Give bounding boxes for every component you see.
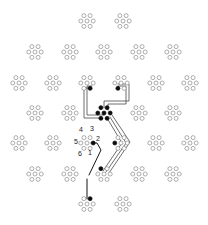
node-unselected[interactable] xyxy=(96,50,100,54)
node-unselected[interactable] xyxy=(113,81,117,85)
node-unselected[interactable] xyxy=(99,177,103,181)
node-selected[interactable] xyxy=(96,111,100,115)
node-unselected[interactable] xyxy=(65,177,69,181)
node-cluster[interactable] xyxy=(113,76,129,91)
node-unselected[interactable] xyxy=(171,172,175,176)
node-unselected[interactable] xyxy=(121,19,125,23)
node-unselected[interactable] xyxy=(116,146,120,150)
node-cluster[interactable] xyxy=(62,167,78,182)
node-selected[interactable] xyxy=(99,116,103,120)
node-unselected[interactable] xyxy=(88,24,92,28)
node-cluster[interactable] xyxy=(148,76,164,91)
node-unselected[interactable] xyxy=(33,111,37,115)
node-unselected[interactable] xyxy=(125,141,129,145)
node-unselected[interactable] xyxy=(79,141,83,145)
node-selected[interactable] xyxy=(113,141,117,145)
node-unselected[interactable] xyxy=(65,116,69,120)
node-unselected[interactable] xyxy=(74,172,78,176)
node-unselected[interactable] xyxy=(174,106,178,110)
node-unselected[interactable] xyxy=(82,76,86,80)
node-unselected[interactable] xyxy=(191,76,195,80)
node-unselected[interactable] xyxy=(182,81,186,85)
node-unselected[interactable] xyxy=(165,50,169,54)
node-cluster[interactable] xyxy=(62,45,78,60)
node-unselected[interactable] xyxy=(54,136,58,140)
node-unselected[interactable] xyxy=(82,86,86,90)
node-unselected[interactable] xyxy=(71,167,75,171)
node-unselected[interactable] xyxy=(165,111,169,115)
node-unselected[interactable] xyxy=(14,76,18,80)
node-unselected[interactable] xyxy=(99,55,103,59)
node-unselected[interactable] xyxy=(88,136,92,140)
node-unselected[interactable] xyxy=(54,146,58,150)
node-unselected[interactable] xyxy=(134,116,138,120)
node-unselected[interactable] xyxy=(79,202,83,206)
node-unselected[interactable] xyxy=(127,202,131,206)
node-unselected[interactable] xyxy=(157,86,161,90)
node-unselected[interactable] xyxy=(65,55,69,59)
node-unselected[interactable] xyxy=(74,111,78,115)
node-unselected[interactable] xyxy=(177,172,181,176)
node-unselected[interactable] xyxy=(174,45,178,49)
node-unselected[interactable] xyxy=(30,167,34,171)
node-unselected[interactable] xyxy=(140,55,144,59)
node-selected[interactable] xyxy=(99,106,103,110)
node-unselected[interactable] xyxy=(168,106,172,110)
node-unselected[interactable] xyxy=(124,14,128,18)
node-unselected[interactable] xyxy=(71,116,75,120)
node-unselected[interactable] xyxy=(160,141,164,145)
node-unselected[interactable] xyxy=(82,197,86,201)
node-unselected[interactable] xyxy=(165,172,169,176)
node-cluster[interactable] xyxy=(131,45,147,60)
node-unselected[interactable] xyxy=(134,167,138,171)
node-unselected[interactable] xyxy=(154,81,158,85)
node-unselected[interactable] xyxy=(71,45,75,49)
node-cluster[interactable] xyxy=(148,136,164,151)
node-unselected[interactable] xyxy=(65,167,69,171)
node-cluster[interactable] xyxy=(182,136,198,151)
node-unselected[interactable] xyxy=(48,76,52,80)
node-unselected[interactable] xyxy=(171,50,175,54)
node-unselected[interactable] xyxy=(131,111,135,115)
node-unselected[interactable] xyxy=(168,116,172,120)
node-unselected[interactable] xyxy=(85,141,89,145)
node-unselected[interactable] xyxy=(174,116,178,120)
node-unselected[interactable] xyxy=(82,207,86,211)
node-unselected[interactable] xyxy=(14,146,18,150)
node-unselected[interactable] xyxy=(48,86,52,90)
node-unselected[interactable] xyxy=(36,55,40,59)
node-unselected[interactable] xyxy=(168,167,172,171)
node-cluster[interactable] xyxy=(165,167,181,182)
node-cluster[interactable] xyxy=(11,136,27,151)
node-unselected[interactable] xyxy=(88,14,92,18)
node-unselected[interactable] xyxy=(68,111,72,115)
node-unselected[interactable] xyxy=(134,55,138,59)
node-cluster[interactable] xyxy=(113,136,129,151)
node-unselected[interactable] xyxy=(71,106,75,110)
node-unselected[interactable] xyxy=(148,81,152,85)
node-unselected[interactable] xyxy=(122,76,126,80)
node-unselected[interactable] xyxy=(85,81,89,85)
node-unselected[interactable] xyxy=(39,111,43,115)
node-unselected[interactable] xyxy=(36,45,40,49)
node-unselected[interactable] xyxy=(91,81,95,85)
node-unselected[interactable] xyxy=(36,177,40,181)
node-unselected[interactable] xyxy=(91,202,95,206)
node-cluster[interactable] xyxy=(131,106,147,121)
node-unselected[interactable] xyxy=(137,172,141,176)
node-cluster[interactable] xyxy=(165,106,181,121)
node-unselected[interactable] xyxy=(17,141,21,145)
node-unselected[interactable] xyxy=(177,111,181,115)
node-unselected[interactable] xyxy=(122,146,126,150)
node-unselected[interactable] xyxy=(174,55,178,59)
node-unselected[interactable] xyxy=(62,50,66,54)
node-unselected[interactable] xyxy=(27,172,31,176)
node-unselected[interactable] xyxy=(160,81,164,85)
node-unselected[interactable] xyxy=(131,50,135,54)
node-unselected[interactable] xyxy=(118,197,122,201)
node-unselected[interactable] xyxy=(20,86,24,90)
node-selected[interactable] xyxy=(88,86,92,90)
node-cluster[interactable] xyxy=(45,76,61,91)
node-unselected[interactable] xyxy=(115,202,119,206)
node-unselected[interactable] xyxy=(27,50,31,54)
